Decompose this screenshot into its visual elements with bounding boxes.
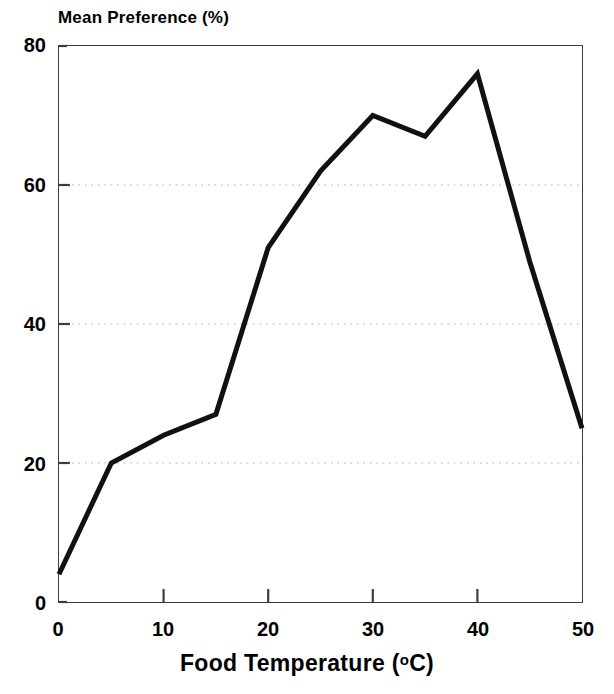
plot-area — [58, 45, 583, 603]
x-axis-title-unit: C) — [409, 650, 434, 676]
chart-figure: Mean Preference (%) 020406080 0102030405… — [0, 0, 614, 694]
x-axis-title: Food Temperature (oC) — [0, 652, 614, 675]
x-tick-label-0: 0 — [34, 619, 82, 639]
x-axis-title-text: Food Temperature ( — [180, 650, 400, 676]
x-tick-label-20: 20 — [244, 619, 292, 639]
y-tick-label-80: 80 — [0, 35, 46, 55]
y-axis-title: Mean Preference (%) — [58, 9, 229, 26]
y-tick-label-40: 40 — [0, 314, 46, 334]
x-tick-label-50: 50 — [559, 619, 607, 639]
degree-symbol-icon: o — [400, 651, 409, 668]
y-tick-label-0: 0 — [0, 593, 46, 613]
x-tick-label-10: 10 — [139, 619, 187, 639]
x-tick-label-40: 40 — [454, 619, 502, 639]
y-tick-label-60: 60 — [0, 175, 46, 195]
y-tick-label-20: 20 — [0, 454, 46, 474]
tick-marks — [59, 46, 582, 602]
x-tick-label-30: 30 — [349, 619, 397, 639]
